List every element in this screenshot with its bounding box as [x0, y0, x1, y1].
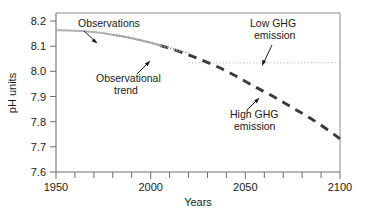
- x-axis-title: Years: [184, 196, 212, 208]
- y-tick-label-7-8: 7.8: [31, 116, 46, 128]
- x-tick-label-2100: 2100: [328, 181, 352, 193]
- annotation-high-ghg-label-line2: emission: [234, 120, 276, 132]
- x-tick-marks: [56, 172, 340, 179]
- chart-canvas: 8.2 8.1 8.0 7.9 7.8 7.7 7.6 1950 2: [0, 0, 366, 210]
- annotation-low-ghg-label-line1: Low GHG: [250, 17, 296, 29]
- y-tick-label-7-6: 7.6: [31, 166, 46, 178]
- annotation-low-ghg-label-line2: emission: [254, 29, 296, 41]
- y-tick-label-7-9: 7.9: [31, 91, 46, 103]
- annotation-observations-label: Observations: [78, 17, 140, 29]
- annotation-obs-trend-label-line1: Observational: [96, 72, 161, 84]
- x-tick-label-1950: 1950: [44, 181, 68, 193]
- y-tick-marks: [50, 21, 56, 172]
- x-tick-label-2050: 2050: [233, 181, 257, 193]
- annotation-obs-trend-label-line2: trend: [114, 84, 138, 96]
- y-axis-title: pH units: [6, 72, 18, 113]
- series-observational-trend: [56, 30, 160, 45]
- ocean-ph-projection-chart: 8.2 8.1 8.0 7.9 7.8 7.7 7.6 1950 2: [0, 0, 366, 210]
- y-tick-label-8-0: 8.0: [31, 65, 46, 77]
- y-tick-label-8-2: 8.2: [31, 15, 46, 27]
- plot-frame: [56, 13, 340, 172]
- annotation-high-ghg-label-line1: High GHG: [230, 108, 278, 120]
- x-tick-label-2000: 2000: [138, 181, 162, 193]
- y-tick-label-7-7: 7.7: [31, 141, 46, 153]
- y-tick-label-8-1: 8.1: [31, 40, 46, 52]
